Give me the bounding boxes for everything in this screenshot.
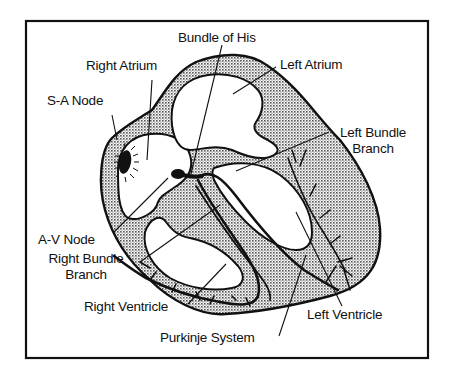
label-right-bundle-branch: Right Bundle Branch — [38, 251, 134, 283]
label-left-bundle-branch-line1: Left Bundle — [330, 125, 416, 141]
label-bundle-of-his: Bundle of His — [178, 30, 256, 46]
label-purkinje-system: Purkinje System — [160, 330, 255, 346]
label-right-atrium: Right Atrium — [86, 58, 157, 74]
label-right-ventricle: Right Ventricle — [84, 299, 168, 315]
label-left-atrium: Left Atrium — [280, 57, 342, 73]
label-sa-node: S-A Node — [47, 93, 103, 109]
label-left-ventricle: Left Ventricle — [307, 307, 382, 323]
heart-illustration — [0, 0, 449, 383]
label-left-bundle-branch: Left Bundle Branch — [330, 125, 416, 157]
label-left-bundle-branch-line2: Branch — [330, 141, 416, 157]
heart-conduction-diagram: Bundle of His Right Atrium Left Atrium S… — [0, 0, 449, 383]
label-right-bundle-branch-line1: Right Bundle — [38, 251, 134, 267]
label-right-bundle-branch-line2: Branch — [38, 267, 134, 283]
label-av-node: A-V Node — [38, 232, 95, 248]
